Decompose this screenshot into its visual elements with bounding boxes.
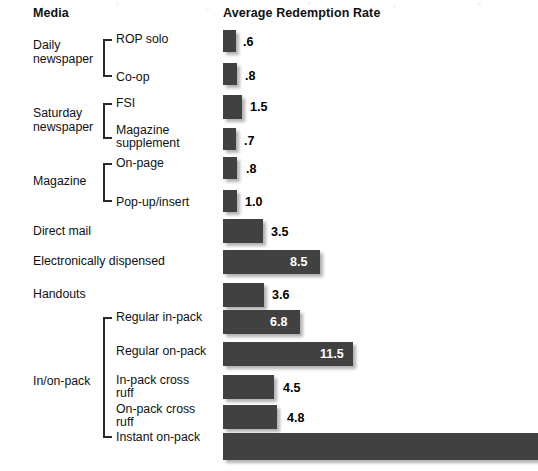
bar-value-magazine-supplement: .7	[244, 134, 254, 148]
bar-coop	[223, 63, 237, 85]
bar-regular-in-pack	[223, 310, 300, 334]
bar-magazine-supplement	[223, 128, 236, 150]
bar-value-direct-mail: 3.5	[271, 225, 288, 239]
group-label-saturday-newspaper: Saturday newspaper	[33, 107, 93, 135]
row-label-magazine-supplement: Magazine supplement	[116, 124, 180, 151]
bar-direct-mail	[223, 219, 263, 243]
row-label-handouts: Handouts	[33, 288, 86, 301]
bar-popup-insert	[223, 190, 237, 212]
group-label-daily-newspaper: Daily newspaper	[33, 39, 93, 67]
bar-on-pack-cross-ruff	[223, 405, 277, 429]
bar-value-popup-insert: 1.0	[245, 195, 262, 209]
bar-value-regular-on-pack: 11.5	[320, 347, 344, 361]
bar-value-coop: .8	[245, 69, 255, 83]
bar-value-on-page: .8	[246, 162, 256, 176]
bar-value-electronically-dispensed: 8.5	[290, 255, 307, 269]
row-label-on-pack-cross-ruff: On-pack cross ruff	[116, 403, 195, 430]
row-label-coop: Co-op	[116, 71, 150, 84]
row-label-on-page: On-page	[116, 157, 164, 170]
row-label-rop-solo: ROP solo	[116, 33, 168, 46]
column-header-rate: Average Redemption Rate	[223, 6, 380, 20]
bar-value-fsi: 1.5	[250, 100, 267, 114]
bar-value-in-pack-cross-ruff: 4.5	[283, 381, 300, 395]
bar-fsi	[223, 95, 242, 119]
row-label-regular-on-pack: Regular on-pack	[116, 345, 206, 358]
row-label-regular-in-pack: Regular in-pack	[116, 311, 202, 324]
bar-in-pack-cross-ruff	[223, 375, 274, 399]
row-label-popup-insert: Pop-up/insert	[116, 196, 189, 209]
group-label-magazine: Magazine	[33, 175, 86, 189]
row-label-instant-on-pack: Instant on-pack	[116, 431, 200, 444]
row-label-fsi: FSI	[116, 97, 135, 110]
bar-instant-on-pack	[223, 433, 538, 460]
row-label-direct-mail: Direct mail	[33, 225, 91, 238]
bar-rop-solo	[223, 30, 236, 52]
bar-on-page	[223, 157, 237, 179]
bar-value-handouts: 3.6	[272, 288, 289, 302]
column-header-media: Media	[33, 6, 69, 20]
row-label-in-pack-cross-ruff: In-pack cross ruff	[116, 374, 189, 401]
bar-value-on-pack-cross-ruff: 4.8	[287, 411, 304, 425]
row-label-electronically-dispensed: Electronically dispensed	[33, 255, 165, 268]
bar-value-regular-in-pack: 6.8	[270, 315, 287, 329]
group-label-in-on-pack: In/on-pack	[33, 375, 90, 389]
bar-handouts	[223, 283, 264, 307]
bar-value-rop-solo: .6	[243, 35, 253, 49]
